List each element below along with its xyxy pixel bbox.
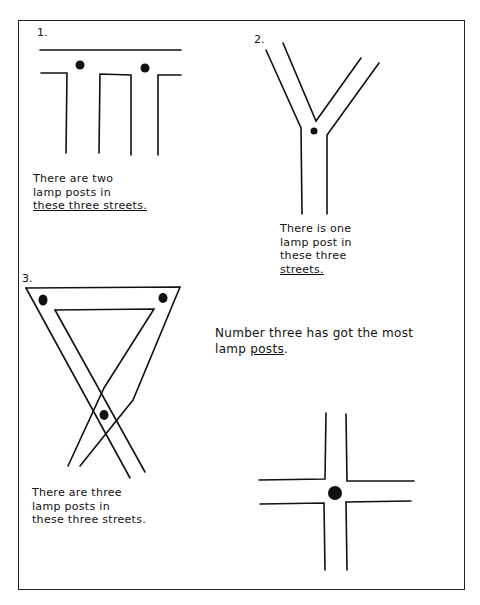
lamp-post-icon [39,295,48,306]
conclusion-line-2: lamp posts. [215,341,460,357]
diagram-2-caption: There is one lamp post in these three st… [280,222,352,276]
caption-line: There are three [32,486,146,500]
diagram-2-number: 2. [254,33,265,46]
lamp-post-icon [76,61,85,70]
caption-line: lamp posts in [32,500,146,514]
lamp-post-icon [159,293,168,303]
diagram-3-caption: There are three lamp posts in these thre… [32,486,146,527]
lamp-post-icon [311,128,318,135]
conclusion-text: Number three has got the most lamp posts… [215,325,460,357]
conclusion-prefix: lamp [215,342,250,356]
diagram-3-number: 3. [22,272,33,285]
caption-line: these three [280,249,352,263]
caption-line: these three streets. [33,199,147,213]
diagram-1-streets [40,50,181,155]
diagram-2-streets [266,43,379,214]
diagram-3-streets [26,287,180,478]
caption-line: these three streets. [32,513,146,527]
lamp-post-icon [100,410,109,420]
conclusion-suffix: . [284,342,288,356]
caption-line: lamp posts in [33,186,147,200]
conclusion-line-1: Number three has got the most [215,325,460,341]
diagram-1-caption: There are two lamp posts in these three … [33,172,147,213]
lamp-post-icon [328,486,342,500]
lamp-post-icon [141,64,150,73]
caption-line: lamp post in [280,236,352,250]
caption-line: There are two [33,172,147,186]
caption-line: There is one [280,222,352,236]
conclusion-underlined: posts [250,342,284,356]
caption-line: streets. [280,263,352,277]
diagram-1-number: 1. [37,26,48,39]
